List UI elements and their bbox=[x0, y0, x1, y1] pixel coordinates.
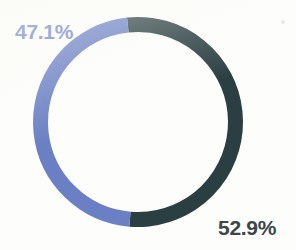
scan-artifact-speck bbox=[281, 20, 285, 24]
donut-slice-blue[interactable] bbox=[31, 15, 245, 229]
slice-label-blue: 47.1% bbox=[15, 21, 73, 42]
slice-label-dark: 52.9% bbox=[218, 217, 276, 238]
donut-chart: 47.1% 52.9% bbox=[0, 0, 296, 250]
donut-slice-dark[interactable] bbox=[31, 15, 245, 229]
